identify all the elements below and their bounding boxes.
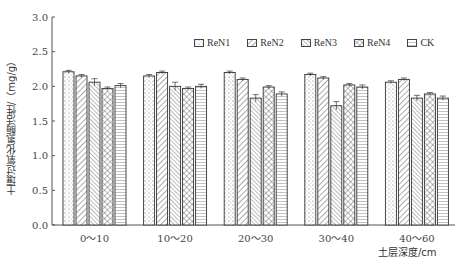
legend-swatch-icon bbox=[354, 39, 364, 47]
x-tick-label: 30～40 bbox=[319, 233, 354, 244]
y-tick-label: 1.5 bbox=[32, 116, 48, 127]
legend-swatch-icon bbox=[301, 39, 311, 47]
legend-item: ReN3 bbox=[301, 37, 337, 48]
x-tick-label: 20～30 bbox=[238, 233, 273, 244]
legend-swatch-icon bbox=[247, 39, 257, 47]
x-tick-label: 0～10 bbox=[80, 233, 109, 244]
legend-label: CK bbox=[420, 37, 434, 48]
bar bbox=[157, 72, 168, 225]
bar bbox=[115, 86, 126, 225]
legend: ReN1ReN2ReN3ReN4CK bbox=[194, 37, 451, 48]
bar bbox=[170, 86, 181, 225]
y-tick-label: 0.0 bbox=[32, 220, 48, 231]
y-tick-label: 3.0 bbox=[32, 12, 48, 23]
y-axis-label: 土壤过氧化氢酶活性/（mg/g） bbox=[4, 30, 20, 220]
bar bbox=[76, 76, 87, 225]
bar bbox=[102, 88, 113, 225]
bar bbox=[331, 106, 342, 225]
bar bbox=[276, 94, 287, 225]
legend-label: ReN1 bbox=[207, 37, 230, 48]
bar bbox=[398, 79, 409, 225]
legend-swatch-icon bbox=[407, 39, 417, 47]
legend-label: ReN4 bbox=[367, 37, 390, 48]
y-tick-label: 2.0 bbox=[32, 81, 48, 92]
legend-label: ReN2 bbox=[260, 37, 283, 48]
bar bbox=[437, 98, 448, 225]
bar bbox=[318, 78, 329, 225]
x-tick-label: 40～60 bbox=[399, 233, 434, 244]
legend-item: CK bbox=[407, 37, 434, 48]
legend-item: ReN4 bbox=[354, 37, 390, 48]
bar bbox=[344, 85, 355, 225]
bar bbox=[144, 76, 155, 225]
bar bbox=[305, 75, 316, 225]
y-tick-label: 1.0 bbox=[32, 150, 48, 161]
legend-item: ReN1 bbox=[194, 37, 230, 48]
legend-swatch-icon bbox=[194, 39, 204, 47]
bar bbox=[63, 72, 74, 225]
y-tick-label: 2.5 bbox=[32, 46, 48, 57]
bar bbox=[196, 86, 207, 225]
legend-label: ReN3 bbox=[314, 37, 337, 48]
x-axis-label: 土层深度/cm bbox=[378, 244, 437, 259]
y-tick-label: 0.5 bbox=[32, 185, 48, 196]
bar bbox=[237, 79, 248, 225]
bar bbox=[385, 82, 396, 225]
bar bbox=[250, 98, 261, 225]
bar bbox=[357, 87, 368, 225]
bar bbox=[424, 94, 435, 225]
x-tick-label: 10～20 bbox=[157, 233, 192, 244]
bar bbox=[263, 87, 274, 225]
bar bbox=[89, 82, 100, 225]
bars: 0～1010～2020～3030～4040～60 bbox=[63, 70, 448, 244]
legend-item: ReN2 bbox=[247, 37, 283, 48]
bar bbox=[411, 98, 422, 225]
bar bbox=[183, 88, 194, 225]
bar bbox=[224, 72, 235, 225]
